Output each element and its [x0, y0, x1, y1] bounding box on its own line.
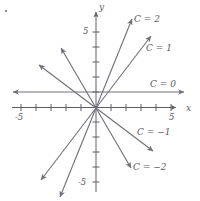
curve-label-c-minus-1: C = −1 — [137, 128, 170, 137]
curve-label-c-minus-2: C = −2 — [133, 163, 166, 172]
y-axis-label: y — [99, 3, 104, 12]
x-axis-label: x — [186, 104, 191, 113]
y-tick-label-5: 5 — [83, 27, 88, 36]
curve-label-c-1: C = 1 — [146, 44, 172, 53]
x-tick-label-minus-5: -5 — [15, 113, 23, 122]
curve-label-c-0: C = 0 — [150, 80, 176, 89]
coordinate-plot-svg — [0, 0, 200, 201]
curve-label-c-2: C = 2 — [134, 15, 160, 24]
y-tick-label-minus-5: -5 — [78, 178, 86, 187]
graph-figure: x y -5 5 5 -5 C = 2 C = 1 C = 0 C = −1 C… — [0, 0, 200, 201]
x-tick-label-5: 5 — [169, 113, 174, 122]
